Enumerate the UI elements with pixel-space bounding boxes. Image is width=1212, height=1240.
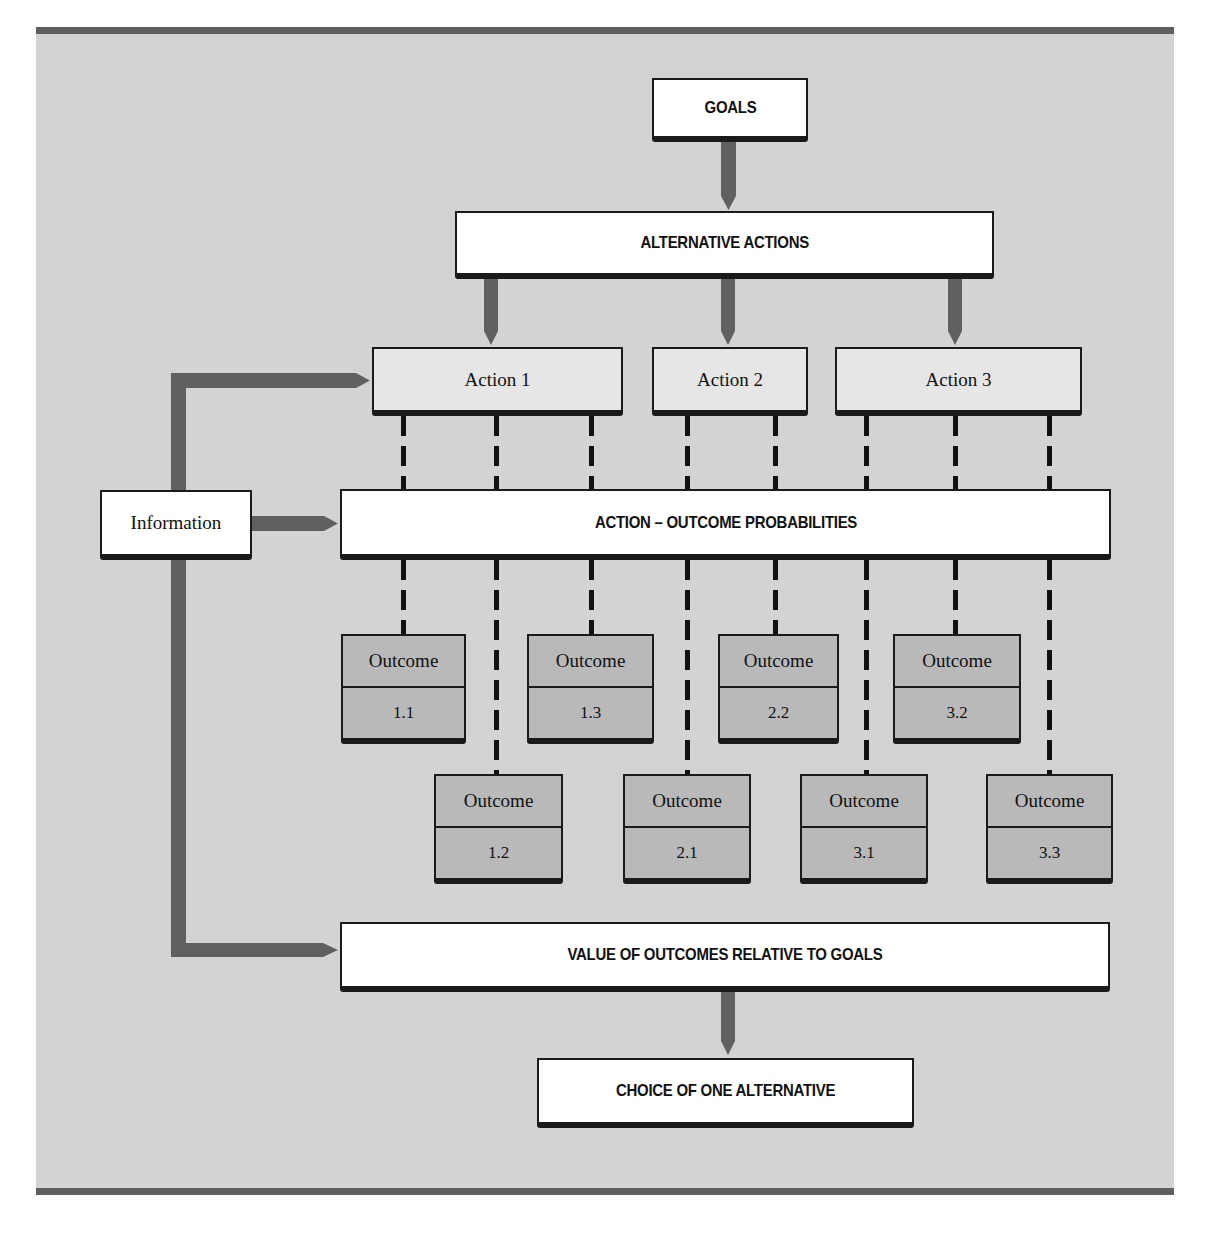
action-2-box: Action 2: [652, 347, 808, 416]
dashed-line-to-outcome-3-3: [1047, 560, 1052, 774]
goals-label: GOALS: [704, 98, 756, 118]
arrow-to-action-1: [484, 279, 498, 345]
outcome-id: 3.2: [895, 688, 1019, 738]
dashed-line-to-outcome-2-2: [773, 560, 778, 634]
outcome-id: 1.1: [343, 688, 464, 738]
outcome-title: Outcome: [802, 776, 926, 828]
dashed-line-to-outcome-2-1: [685, 560, 690, 774]
outcome-title: Outcome: [895, 636, 1019, 688]
action-2-label: Action 2: [697, 369, 763, 391]
action-outcome-probabilities-box: ACTION – OUTCOME PROBABILITIES: [340, 489, 1111, 560]
outcome-2-1: Outcome 2.1: [623, 774, 751, 884]
information-label: Information: [131, 512, 222, 534]
outcome-3-2: Outcome 3.2: [893, 634, 1021, 744]
dashed-line-action1-a: [401, 416, 406, 489]
probabilities-label: ACTION – OUTCOME PROBABILITIES: [594, 513, 856, 533]
outcome-id: 2.2: [720, 688, 837, 738]
outcome-1-2: Outcome 1.2: [434, 774, 563, 884]
arrow-to-action-2: [721, 279, 735, 345]
goals-box: GOALS: [652, 78, 808, 142]
arrow-info-to-value: [171, 943, 338, 957]
dashed-line-action3-a: [864, 416, 869, 489]
outcome-id: 2.1: [625, 828, 749, 878]
action-3-box: Action 3: [835, 347, 1082, 416]
arrow-info-to-action-1: [171, 373, 370, 388]
outcome-2-2: Outcome 2.2: [718, 634, 839, 744]
action-1-box: Action 1: [372, 347, 623, 416]
dashed-line-action1-c: [589, 416, 594, 489]
dashed-line-action1-b: [494, 416, 499, 489]
arrow-value-to-choice: [721, 992, 735, 1055]
dashed-line-action2-b: [773, 416, 778, 489]
arrow-info-to-probabilities: [252, 516, 338, 531]
alternative-actions-box: ALTERNATIVE ACTIONS: [455, 211, 994, 279]
outcome-title: Outcome: [720, 636, 837, 688]
outcome-id: 1.2: [436, 828, 561, 878]
action-1-label: Action 1: [465, 369, 531, 391]
dashed-line-to-outcome-1-3: [589, 560, 594, 634]
outcome-title: Outcome: [343, 636, 464, 688]
dashed-line-action3-c: [1047, 416, 1052, 489]
dashed-line-to-outcome-1-1: [401, 560, 406, 634]
choice-label: CHOICE OF ONE ALTERNATIVE: [616, 1081, 835, 1101]
dashed-line-to-outcome-3-2: [953, 560, 958, 634]
outcome-title: Outcome: [625, 776, 749, 828]
dashed-line-action2-a: [685, 416, 690, 489]
alternative-actions-label: ALTERNATIVE ACTIONS: [640, 233, 808, 253]
information-loop-bar: [171, 373, 186, 957]
outcome-1-1: Outcome 1.1: [341, 634, 466, 744]
information-box: Information: [100, 490, 252, 560]
value-of-outcomes-box: VALUE OF OUTCOMES RELATIVE TO GOALS: [340, 922, 1110, 992]
dashed-line-to-outcome-3-1: [864, 560, 869, 774]
outcome-1-3: Outcome 1.3: [527, 634, 654, 744]
value-label: VALUE OF OUTCOMES RELATIVE TO GOALS: [568, 945, 883, 965]
outcome-id: 3.3: [988, 828, 1111, 878]
action-3-label: Action 3: [926, 369, 992, 391]
outcome-id: 3.1: [802, 828, 926, 878]
outcome-3-1: Outcome 3.1: [800, 774, 928, 884]
choice-box: CHOICE OF ONE ALTERNATIVE: [537, 1058, 914, 1128]
outcome-id: 1.3: [529, 688, 652, 738]
arrow-goals-to-alternatives: [721, 142, 736, 210]
dashed-line-action3-b: [953, 416, 958, 489]
outcome-title: Outcome: [436, 776, 561, 828]
arrows-layer: [0, 0, 1212, 1240]
dashed-line-to-outcome-1-2: [494, 560, 499, 774]
outcome-title: Outcome: [988, 776, 1111, 828]
outcome-3-3: Outcome 3.3: [986, 774, 1113, 884]
outcome-title: Outcome: [529, 636, 652, 688]
arrow-to-action-3: [948, 279, 962, 345]
